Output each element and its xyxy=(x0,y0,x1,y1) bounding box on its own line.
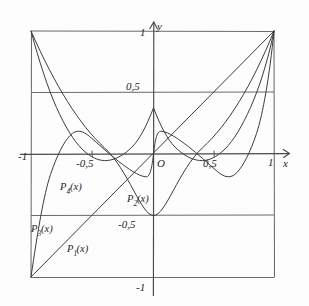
curve-label-p3-arg: (x) xyxy=(41,223,53,235)
curve-label-p2-arg: (x) xyxy=(137,193,149,205)
ytick-label-0.5: 0,5 xyxy=(126,80,140,92)
legendre-polynomials-figure: 1 y 0,5 -0,5 -1 -1 -0,5 O 0,5 1 x P 4 (x… xyxy=(0,0,309,306)
y-axis-label: y xyxy=(156,20,162,32)
origin-label: O xyxy=(157,157,165,169)
axes xyxy=(20,22,290,296)
curve-p4 xyxy=(31,31,274,161)
xtick-label-minus-1: -1 xyxy=(18,150,27,162)
xtick-label-0.5: 0,5 xyxy=(203,157,217,169)
curve-label-p4: P 4 (x) xyxy=(59,181,82,196)
curve-label-p3: P 3 (x) xyxy=(30,223,53,238)
curve-label-p1: P 1 (x) xyxy=(66,243,89,258)
xtick-label-minus-0.5: -0,5 xyxy=(76,157,94,169)
curve-label-p1-arg: (x) xyxy=(77,243,89,255)
gridline-y-0.5 xyxy=(31,92,274,93)
ytick-label-1: 1 xyxy=(140,26,146,38)
frame-right xyxy=(274,32,275,278)
ytick-label-minus-0.5: -0,5 xyxy=(118,218,136,230)
xtick-label-1: 1 xyxy=(268,156,274,168)
plot-canvas: 1 y 0,5 -0,5 -1 -1 -0,5 O 0,5 1 x P 4 (x… xyxy=(0,0,309,306)
ytick-label-minus-1: -1 xyxy=(136,281,145,293)
frame-top xyxy=(32,31,275,32)
curve-label-p4-arg: (x) xyxy=(70,181,82,193)
curve-label-p2: P 2 (x) xyxy=(126,193,149,208)
x-axis-label: x xyxy=(282,157,288,169)
